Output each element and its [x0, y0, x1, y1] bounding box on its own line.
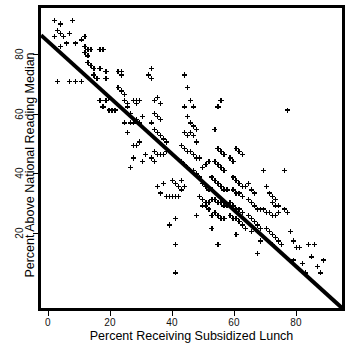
y-axis-title: Percent Above National Reading Median [23, 35, 37, 295]
plot-area [41, 8, 342, 308]
plot-frame [38, 5, 345, 311]
y-tick-label-60: 60 [14, 108, 25, 120]
x-tick-label-60: 60 [228, 317, 240, 328]
x-tick-mark-0 [48, 311, 49, 316]
regression-line [41, 35, 342, 308]
x-tick-label-80: 80 [290, 317, 302, 328]
x-tick-label-20: 20 [104, 317, 116, 328]
x-axis-title: Percent Receiving Subsidized Lunch [38, 329, 345, 343]
x-tick-label-40: 40 [166, 317, 178, 328]
x-tick-mark-80 [296, 311, 297, 316]
x-tick-mark-60 [234, 311, 235, 316]
y-tick-label-80: 80 [14, 48, 25, 60]
x-tick-mark-20 [110, 311, 111, 316]
y-tick-label-20: 20 [14, 227, 25, 239]
plot-canvas [41, 8, 342, 308]
x-tick-label-0: 0 [45, 317, 51, 328]
scatter-points [52, 18, 326, 275]
x-tick-mark-40 [172, 311, 173, 316]
y-tick-label-40: 40 [14, 167, 25, 179]
